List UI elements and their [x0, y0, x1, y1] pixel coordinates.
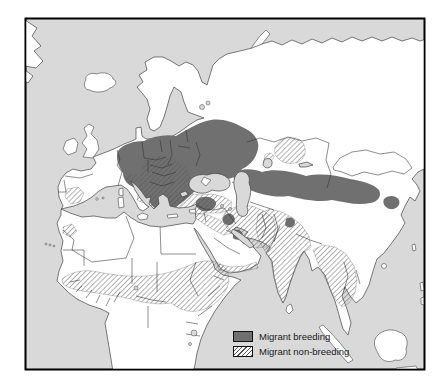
- canary-1: [45, 243, 47, 245]
- legend-label-breeding: Migrant breeding: [259, 331, 330, 342]
- distribution-map: [0, 0, 446, 392]
- lake-onega: [206, 101, 210, 105]
- legend-label-non-breeding: Migrant non-breeding: [259, 346, 349, 357]
- legend-item-non-breeding: Migrant non-breeding: [233, 345, 349, 358]
- lake-chad: [134, 286, 138, 290]
- breeding-swatch: [233, 331, 253, 342]
- crete: [167, 214, 178, 218]
- cyprus: [189, 209, 196, 213]
- taiwan: [412, 244, 416, 251]
- figure: Migrant breeding Migrant non-breeding: [0, 0, 446, 392]
- hainan: [382, 264, 387, 269]
- philippine-sliver-1: [420, 282, 424, 291]
- lake-ladoga: [200, 105, 205, 110]
- canary-3: [53, 245, 55, 247]
- sardinia: [118, 197, 124, 208]
- corsica: [119, 188, 123, 196]
- philippine-sliver-2: [421, 297, 424, 305]
- legend: Migrant breeding Migrant non-breeding: [233, 330, 349, 358]
- lake-van: [221, 205, 224, 208]
- lake-tanganyika: [189, 343, 192, 346]
- lake-victoria: [191, 330, 197, 336]
- canary-2: [49, 244, 51, 246]
- aral-sea: [263, 159, 272, 168]
- balearic-2: [102, 197, 104, 199]
- black-sea: [189, 173, 230, 193]
- non-breeding-swatch: [233, 346, 253, 357]
- legend-item-breeding: Migrant breeding: [233, 330, 349, 343]
- lake-urmia: [229, 208, 232, 211]
- balearic-1: [96, 198, 98, 200]
